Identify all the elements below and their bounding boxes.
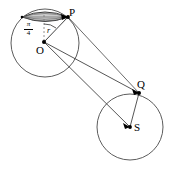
segment-O-S bbox=[44, 42, 130, 127]
angle-numerator: π bbox=[24, 21, 33, 28]
point-dot-cap-left bbox=[21, 16, 24, 19]
geometry-figure: P O Q S r π 4 bbox=[0, 0, 170, 169]
label-point-S: S bbox=[134, 122, 140, 133]
point-dot-Q bbox=[137, 91, 141, 95]
label-angle-pi-over-4: π 4 bbox=[24, 21, 33, 38]
angle-denominator: 4 bbox=[24, 30, 33, 37]
point-dot-S bbox=[128, 125, 132, 129]
label-radius-r: r bbox=[47, 27, 50, 35]
label-point-P: P bbox=[69, 7, 75, 18]
label-point-Q: Q bbox=[137, 79, 145, 90]
segment-O-Q bbox=[44, 42, 139, 93]
label-point-O: O bbox=[36, 45, 44, 56]
segment-P-Q bbox=[68, 17, 139, 93]
